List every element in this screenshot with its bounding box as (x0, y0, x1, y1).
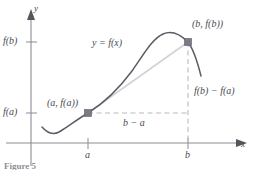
run-label: b − a (123, 118, 145, 128)
mean-value-theorem-figure: y x f(b) f(a) a b y = f(x) (b, f(b)) (a,… (0, 0, 254, 170)
point-b-marker (185, 39, 192, 46)
rise-label: f(b) − f(a) (194, 86, 235, 96)
point-b-label: (b, f(b)) (192, 19, 223, 29)
x-tick-label-a: a (85, 150, 90, 160)
x-tick-label-b: b (185, 150, 190, 160)
y-axis-label: y (34, 4, 38, 13)
y-tick-label-fa: f(a) (3, 107, 17, 117)
point-a-marker (85, 110, 92, 117)
figure-caption: Figure 5 (4, 162, 36, 170)
curve-equation-label: y = f(x) (92, 38, 122, 48)
x-axis-label: x (241, 140, 245, 149)
y-tick-label-fb: f(b) (3, 36, 17, 46)
point-a-label: (a, f(a)) (47, 98, 78, 108)
